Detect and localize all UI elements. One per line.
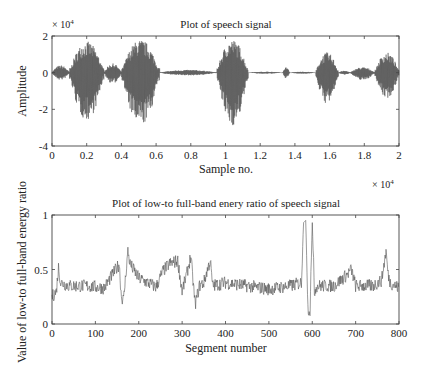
x-tick-label: 1.6 [323,149,337,161]
x-tick-label: 700 [347,327,364,339]
axes-frame [52,215,399,324]
energy-ratio-line [52,220,399,315]
x-tick-label: 0.6 [149,149,163,161]
x-tick-label: 300 [174,327,191,339]
y-tick-label: 0 [43,318,49,330]
x-tick-label: 500 [261,327,278,339]
speech-waveform [52,41,399,125]
y-tick-label: 1 [43,209,49,221]
x-tick-label: 2 [396,149,402,161]
x-tick-label: 0.4 [115,149,129,161]
x-tick-label: 200 [131,327,148,339]
x-tick-label: 0 [49,327,55,339]
x-tick-label: 400 [217,327,234,339]
plot-title: Plot of speech signal [180,18,271,30]
plot-title: Plot of low-to full-band enery ratio of … [112,197,340,209]
y-tick-label: 0 [43,67,49,79]
x-multiplier: × 104 [372,178,394,190]
x-tick-label: 1.8 [357,149,371,161]
x-tick-label: 1.4 [288,149,302,161]
figure: × 104 Plot of speech signal 00.20.40.60.… [0,0,426,370]
x-tick-label: 0.2 [80,149,94,161]
x-tick-label: 1.2 [253,149,267,161]
x-tick-label: 1 [223,149,229,161]
energy-ratio-plot: Plot of low-to full-band enery ratio of … [15,181,408,363]
y-tick-label: -4 [39,140,49,152]
y-axis-label: Value of low-to full-band energy ratio [15,181,29,363]
x-tick-label: 100 [87,327,104,339]
y-multiplier: × 104 [52,18,74,30]
x-axis-label: Segment number [185,341,267,355]
x-tick-label: 0 [49,149,55,161]
speech-signal-plot: × 104 Plot of speech signal 00.20.40.60.… [15,18,402,190]
x-tick-label: 800 [391,327,408,339]
x-tick-label: 600 [304,327,321,339]
y-tick-label: 0.5 [34,264,48,276]
y-tick-label: 2 [43,30,49,42]
x-tick-label: 0.8 [184,149,198,161]
y-tick-label: -2 [39,103,48,115]
x-axis-label: Sample no. [199,162,253,176]
y-axis-label: Amplitude [15,65,29,116]
